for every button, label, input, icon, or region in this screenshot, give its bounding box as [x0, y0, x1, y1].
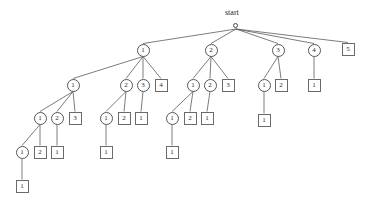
tree-node-square-2[interactable]: 2 — [184, 112, 197, 125]
tree-edge — [236, 29, 314, 44]
tree-edge — [193, 57, 211, 79]
tree-edge — [143, 29, 236, 44]
tree-edges-layer — [0, 0, 374, 205]
tree-node-square-1[interactable]: 1 — [16, 180, 29, 193]
tree-node-circle-1[interactable]: 1 — [34, 112, 47, 125]
tree-edge — [141, 92, 143, 112]
tree-edge — [172, 92, 193, 112]
tree-node-square-1[interactable]: 1 — [308, 79, 321, 92]
tree-node-square-2[interactable]: 2 — [118, 112, 131, 125]
tree-node-circle-1[interactable]: 1 — [67, 79, 80, 92]
tree-node-square-4[interactable]: 4 — [155, 79, 168, 92]
tree-node-circle-1[interactable]: 1 — [16, 146, 29, 159]
tree-node-circle-2[interactable]: 2 — [51, 112, 64, 125]
tree-edge — [278, 57, 281, 79]
tree-node-square-1[interactable]: 1 — [258, 114, 271, 127]
tree-edge — [211, 57, 228, 79]
tree-edge — [124, 92, 126, 112]
tree-edge — [143, 57, 161, 79]
tree-edge — [190, 92, 193, 112]
tree-edge — [236, 29, 278, 44]
start-label: start — [225, 8, 239, 17]
tree-edge — [210, 57, 211, 79]
tree-node-square-1[interactable]: 1 — [51, 146, 64, 159]
tree-node-circle-1[interactable]: 1 — [187, 79, 200, 92]
tree-edge — [106, 92, 126, 112]
tree-node-square-1[interactable]: 1 — [166, 146, 179, 159]
tree-node-circle-3[interactable]: 3 — [137, 79, 150, 92]
tree-node-circle-1[interactable]: 1 — [137, 44, 150, 57]
tree-node-square-2[interactable]: 2 — [275, 79, 288, 92]
tree-node-circle-2[interactable]: 2 — [120, 79, 133, 92]
tree-edge — [73, 92, 75, 112]
tree-node-square-5[interactable]: 5 — [342, 43, 355, 56]
start-node[interactable] — [233, 23, 238, 28]
tree-node-square-1[interactable]: 1 — [100, 146, 113, 159]
search-tree-diagram: 1234512341231211231211211121111 start — [0, 0, 374, 205]
tree-edge — [73, 57, 143, 79]
tree-node-square-2[interactable]: 2 — [34, 146, 47, 159]
tree-node-circle-2[interactable]: 2 — [205, 44, 218, 57]
tree-edge — [211, 29, 236, 44]
tree-edge — [264, 57, 278, 79]
tree-edge — [40, 92, 73, 112]
tree-edge — [207, 92, 210, 112]
tree-node-circle-1[interactable]: 1 — [100, 112, 113, 125]
tree-edge — [57, 92, 73, 112]
tree-node-square-3[interactable]: 3 — [222, 79, 235, 92]
tree-node-circle-2[interactable]: 2 — [204, 79, 217, 92]
tree-node-circle-3[interactable]: 3 — [272, 44, 285, 57]
tree-edge — [236, 29, 348, 43]
tree-node-circle-4[interactable]: 4 — [308, 44, 321, 57]
tree-node-square-3[interactable]: 3 — [69, 112, 82, 125]
tree-node-circle-1[interactable]: 1 — [258, 79, 271, 92]
tree-node-square-1[interactable]: 1 — [135, 112, 148, 125]
tree-edge — [126, 57, 143, 79]
tree-node-square-1[interactable]: 1 — [201, 112, 214, 125]
tree-node-circle-1[interactable]: 1 — [166, 112, 179, 125]
tree-edge — [22, 125, 40, 146]
